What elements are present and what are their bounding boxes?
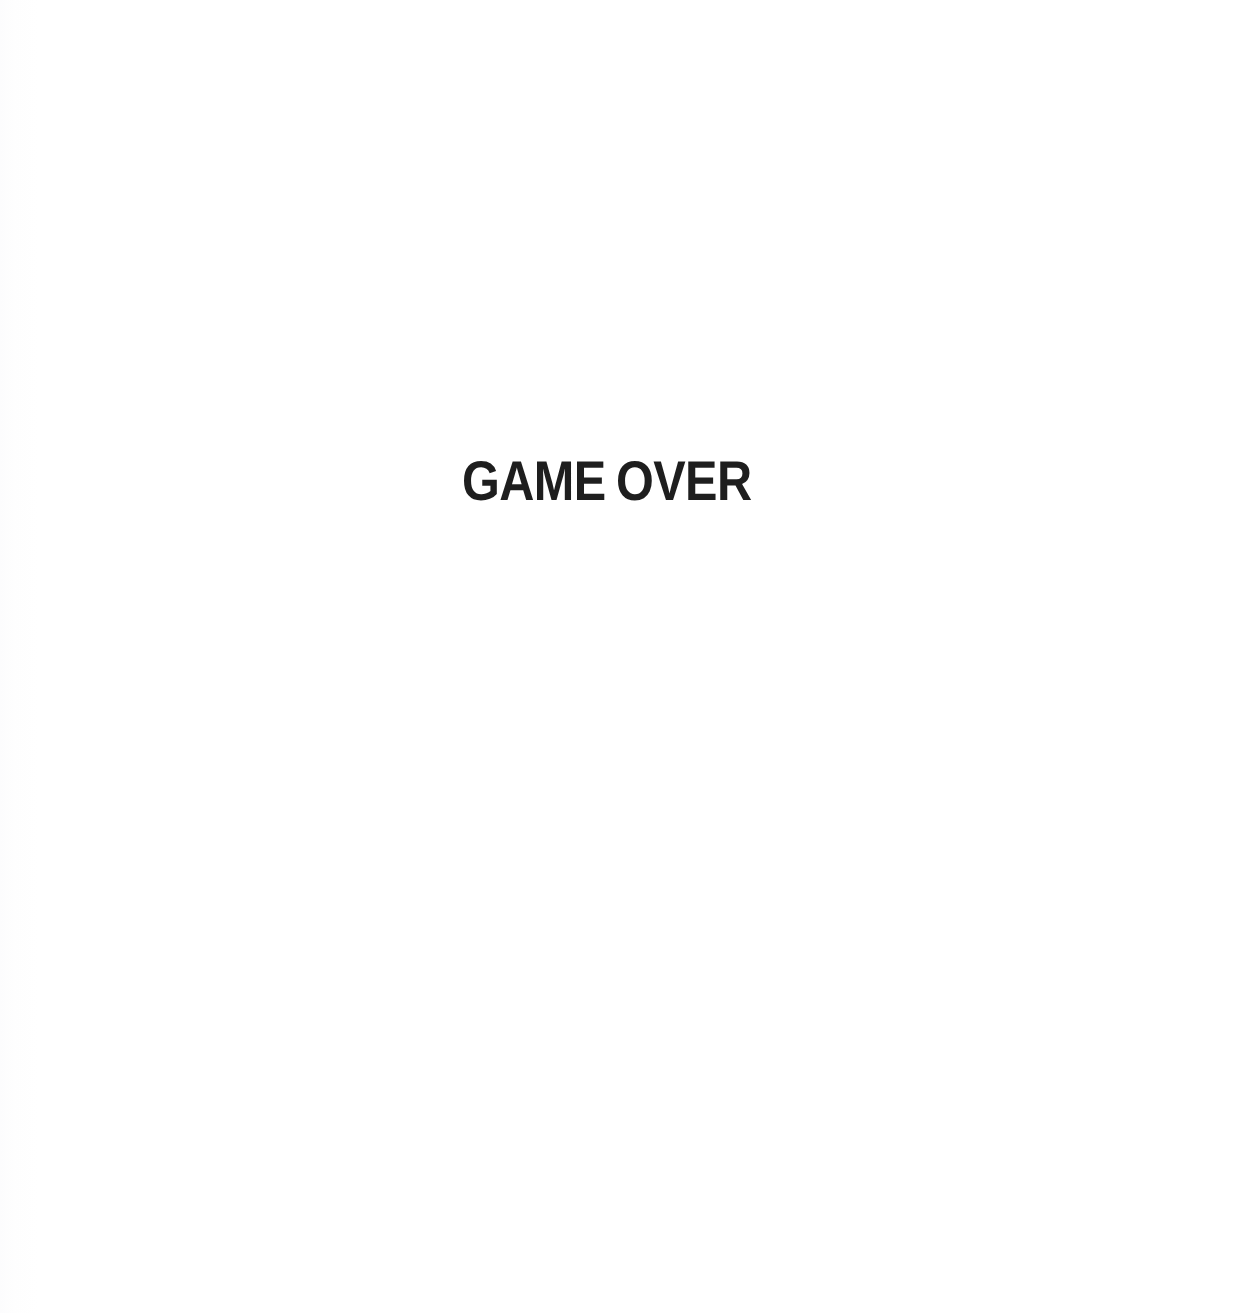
page-canvas: GAME OVER (0, 0, 1238, 1313)
game-over-message: GAME OVER (462, 449, 732, 513)
game-over-text: GAME OVER (462, 453, 752, 509)
